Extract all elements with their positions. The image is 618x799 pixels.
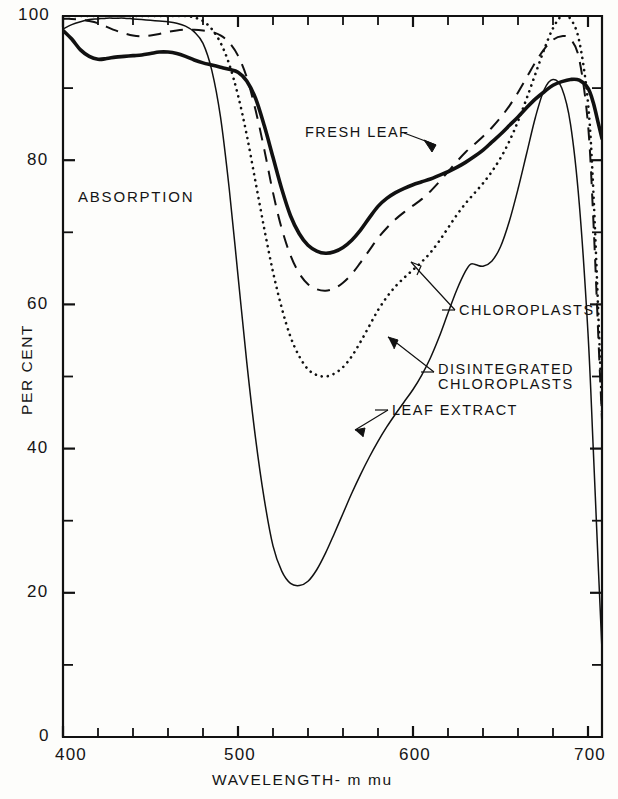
y-tick-label-40: 40 xyxy=(27,438,48,458)
x-tick-label-600: 600 xyxy=(399,745,431,765)
absorption-annotation: ABSORPTION xyxy=(78,188,194,205)
plot-canvas xyxy=(0,0,618,799)
y-tick-label-80: 80 xyxy=(27,150,48,170)
disintegrated-line-1: DISINTEGRATED xyxy=(438,362,574,377)
y-tick-label-100: 100 xyxy=(18,5,50,25)
curve-disintegrated-chloroplasts xyxy=(63,15,602,412)
y-tick-label-20: 20 xyxy=(27,582,48,602)
y-tick-label-0: 0 xyxy=(39,726,50,746)
y-axis-title: PER CENT xyxy=(18,324,36,415)
absorption-spectra-figure: 400 500 600 700 0 20 40 60 80 100 WAVELE… xyxy=(0,0,618,799)
x-axis-title: WAVELENGTH- m mu xyxy=(212,771,393,789)
y-tick-label-60: 60 xyxy=(27,294,48,314)
x-tick-label-400: 400 xyxy=(55,745,87,765)
series-label-chloroplasts: CHLOROPLASTS xyxy=(459,302,595,318)
series-label-leaf-extract: LEAF EXTRACT xyxy=(392,402,518,418)
data-curves xyxy=(63,15,602,650)
x-tick-label-500: 500 xyxy=(224,745,256,765)
series-label-disintegrated-chloroplasts: DISINTEGRATED CHLOROPLASTS xyxy=(438,362,574,392)
x-tick-label-700: 700 xyxy=(574,745,606,765)
disintegrated-line-2: CHLOROPLASTS xyxy=(438,377,574,392)
curve-fresh-leaf xyxy=(63,30,602,253)
curve-chloroplasts xyxy=(63,19,602,420)
series-label-fresh-leaf: FRESH LEAF xyxy=(305,124,409,140)
